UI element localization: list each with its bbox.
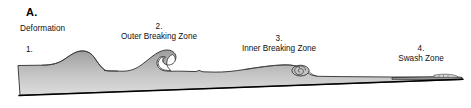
zone-4-name: Swash Zone [376,54,466,64]
panel-letter: A. [26,6,37,18]
zone-3-name: Inner Breaking Zone [218,44,340,54]
zone-2-number: 2. [98,22,220,32]
zone-1-name-label: Deformation [20,24,65,34]
zone-1-label-group: 1. [26,45,33,55]
zone-4-number: 4. [376,44,466,54]
zone-2-label-group: 2. Outer Breaking Zone [98,22,220,42]
zone-4-label-group: 4. Swash Zone [376,44,466,64]
zone-1-number: 1. [26,45,33,55]
zone-3-label-group: 3. Inner Breaking Zone [218,34,340,54]
zone-2-name: Outer Breaking Zone [98,32,220,42]
zone-3-number: 3. [218,34,340,44]
swash-foam-detail [434,74,458,77]
wave-transformation-figure: A. Deformation 1. 2. Outer Breaking Zone… [0,0,471,108]
